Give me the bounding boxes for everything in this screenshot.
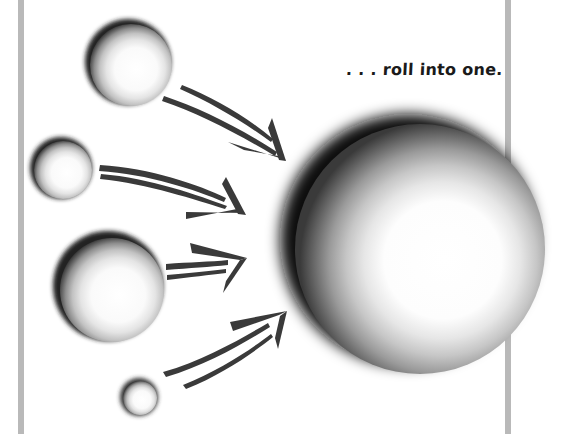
big-sphere — [280, 114, 545, 374]
arrow-1 — [162, 85, 286, 161]
arrow-4 — [163, 311, 287, 389]
small-sphere-1 — [85, 19, 172, 106]
small-sphere-4 — [120, 378, 158, 416]
small-sphere-2 — [30, 137, 92, 199]
arrow-3 — [166, 243, 247, 293]
arrow-2 — [99, 165, 246, 219]
small-sphere-3 — [53, 231, 164, 342]
caption-text: . . . roll into one. — [346, 60, 504, 79]
